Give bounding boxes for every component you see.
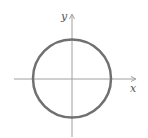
diagram-canvas: y x: [0, 0, 148, 138]
circle-diagram: y x: [0, 0, 148, 138]
x-axis-label: x: [130, 82, 137, 95]
y-axis-label: y: [60, 10, 68, 23]
